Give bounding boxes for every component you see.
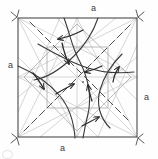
side-label-left: a [8, 60, 13, 70]
side-label-top: a [91, 3, 96, 13]
side-label-right: a [144, 92, 149, 102]
origami-crease-pattern-figure: a a a a [0, 0, 158, 159]
side-label-bottom: a [60, 143, 65, 153]
paper-smudge-mark [2, 150, 13, 159]
arrow-lower-left-up [56, 84, 74, 94]
diagram-canvas [0, 0, 158, 159]
center-point [82, 81, 84, 83]
fold-arrows-group [33, 30, 119, 126]
